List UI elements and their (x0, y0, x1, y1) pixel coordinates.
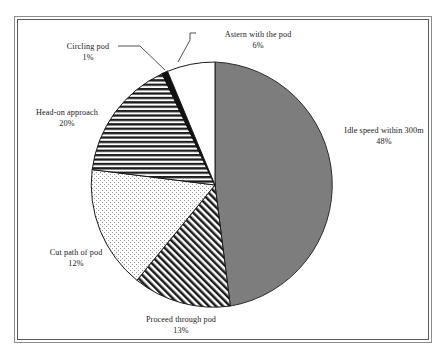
pie-label-percent: 1% (38, 53, 138, 64)
pie-label-astern-with-the-pod: Astern with the pod 6% (198, 30, 318, 51)
pie-label-idle-speed-within-300m: Idle speed within 300m 48% (326, 126, 442, 147)
pie-label-proceed-through-pod: Proceed through pod 13% (116, 315, 246, 336)
pie-label-name: Astern with the pod (198, 30, 318, 41)
figure-pie-chart: Astern with the pod 6% Circling pod 1% H… (0, 0, 448, 362)
pie-label-percent: 48% (326, 137, 442, 148)
pie-label-percent: 20% (12, 119, 122, 130)
pie-label-name: Circling pod (38, 42, 138, 53)
pie-label-percent: 13% (116, 326, 246, 337)
leader-line-astern-with-the-pod (178, 33, 196, 62)
pie-label-name: Cut path of pod (26, 248, 126, 259)
pie-label-name: Proceed through pod (116, 315, 246, 326)
pie-label-name: Head-on approach (12, 108, 122, 119)
pie-label-cut-path-of-pod: Cut path of pod 12% (26, 248, 126, 269)
pie-label-circling-pod: Circling pod 1% (38, 42, 138, 63)
pie-label-percent: 6% (198, 41, 318, 52)
pie-label-percent: 12% (26, 259, 126, 270)
pie-slice-idle-speed-within-300m[interactable] (215, 62, 332, 306)
pie-label-name: Idle speed within 300m (326, 126, 442, 137)
pie-label-head-on-approach: Head-on approach 20% (12, 108, 122, 129)
